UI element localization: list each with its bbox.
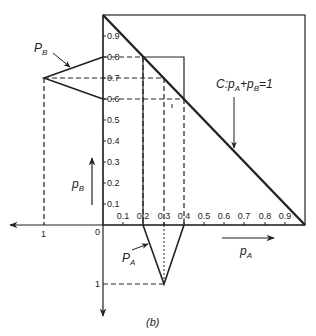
constraint-label: C:pA+pB=1 [216, 77, 273, 93]
svg-text:0.6: 0.6 [107, 94, 120, 104]
svg-text:0.4: 0.4 [107, 136, 120, 146]
PA-label: PA [122, 251, 135, 267]
svg-text:0.2: 0.2 [107, 178, 120, 188]
svg-text:0.1: 0.1 [107, 199, 120, 209]
svg-text:0.9: 0.9 [107, 31, 120, 41]
constraint-line [103, 15, 305, 225]
dashed-guides [44, 57, 184, 284]
svg-text:0.2: 0.2 [137, 211, 150, 221]
pA-tick-labels: 0.1 0.2 0.3 0.4 0.5 0.6 0.7 0.8 0.9 [117, 211, 292, 221]
pA-unit-label: 1 [41, 229, 46, 239]
pA-axis-label: pA [239, 244, 252, 260]
PB-label: PB [34, 41, 48, 57]
svg-text:0.8: 0.8 [259, 211, 272, 221]
svg-text:0.6: 0.6 [218, 211, 231, 221]
svg-text:0.4: 0.4 [178, 211, 191, 221]
svg-text:0.1: 0.1 [117, 211, 130, 221]
probability-diagram: 0.1 0.2 0.3 0.4 0.5 0.6 0.7 0.8 0.9 0.1 … [0, 0, 316, 336]
svg-text:0.9: 0.9 [279, 211, 292, 221]
svg-text:0.3: 0.3 [107, 157, 120, 167]
svg-text:0.7: 0.7 [238, 211, 251, 221]
PA-leader [132, 244, 148, 250]
figure-caption: (b) [146, 316, 160, 328]
PB-leader [53, 53, 70, 67]
svg-text:0.3: 0.3 [158, 211, 171, 221]
svg-text:0.5: 0.5 [107, 115, 120, 125]
pB-axis-label: pB [71, 177, 85, 193]
pB-unit-label: 1 [95, 279, 100, 289]
svg-text:0.7: 0.7 [107, 73, 120, 83]
svg-text:0.8: 0.8 [107, 52, 120, 62]
pB-tick-labels: 0.1 0.2 0.3 0.4 0.5 0.6 0.7 0.8 0.9 [107, 31, 120, 209]
origin-label: 0 [95, 227, 100, 237]
svg-text:0.5: 0.5 [198, 211, 211, 221]
